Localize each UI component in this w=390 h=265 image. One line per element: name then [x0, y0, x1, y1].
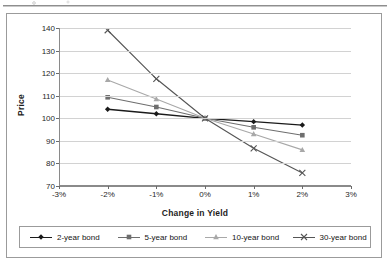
- gridline: [59, 28, 351, 29]
- legend-item-2-year-bond[interactable]: 2-year bond: [20, 232, 108, 242]
- y-tick-label: 140: [42, 24, 55, 33]
- x-tick-mark: [156, 186, 157, 189]
- diamond-marker: [154, 111, 159, 116]
- legend-key-marker: [35, 232, 47, 242]
- legend-label: 10-year bond: [232, 233, 279, 242]
- x-tick-mark: [254, 186, 255, 189]
- x-tick-label: 2%: [297, 190, 309, 199]
- triangle-legend-icon: [205, 232, 227, 242]
- diamond-legend-icon: [30, 232, 52, 242]
- diamond-marker: [251, 119, 256, 124]
- y-axis-line: [59, 28, 60, 186]
- triangle-marker: [105, 77, 111, 82]
- square-legend-icon: [118, 232, 140, 242]
- square-marker: [300, 133, 305, 138]
- cross-marker: [251, 145, 257, 151]
- cross-marker: [299, 170, 305, 176]
- legend-label: 5-year bond: [145, 233, 188, 242]
- legend-item-5-year-bond[interactable]: 5-year bond: [108, 232, 196, 242]
- legend-label: 2-year bond: [57, 233, 100, 242]
- legend-item-10-year-bond[interactable]: 10-year bond: [195, 232, 283, 242]
- y-axis-title: Price: [16, 75, 26, 135]
- gridline: [59, 163, 351, 164]
- y-tick-label: 120: [42, 69, 55, 78]
- x-axis-line: [59, 185, 351, 186]
- legend-key-marker: [210, 232, 222, 242]
- triangle-marker: [213, 234, 219, 239]
- x-tick-label: -1%: [149, 190, 163, 199]
- x-tick-label: 0%: [199, 190, 211, 199]
- diamond-marker: [300, 122, 305, 127]
- diamond-marker: [38, 234, 43, 239]
- series-line: [108, 30, 303, 173]
- gridline: [59, 51, 351, 52]
- chart-legend: 2-year bond5-year bond10-year bond30-yea…: [19, 226, 371, 248]
- x-tick-mark: [205, 186, 206, 189]
- chart-figure: Price 708090100110120130140 -3%-2%-1%0%1…: [6, 13, 382, 258]
- legend-key-marker: [298, 232, 310, 242]
- gridline: [59, 73, 351, 74]
- x-axis-title: Change in Yield: [7, 208, 383, 218]
- square-marker: [251, 125, 256, 130]
- x-tick-label: -2%: [101, 190, 115, 199]
- cross-legend-icon: [293, 232, 315, 242]
- gridline: [59, 118, 351, 119]
- x-tick-mark: [302, 186, 303, 189]
- plot-wrapper: Price 708090100110120130140 -3%-2%-1%0%1…: [7, 14, 383, 219]
- x-tick-mark: [108, 186, 109, 189]
- gridline: [59, 141, 351, 142]
- legend-label: 30-year bond: [320, 233, 367, 242]
- x-tick-label: 3%: [345, 190, 357, 199]
- plot-area: 708090100110120130140 -3%-2%-1%0%1%2%3%: [59, 28, 351, 186]
- y-tick-label: 80: [46, 159, 55, 168]
- square-marker: [154, 105, 159, 110]
- cross-marker: [301, 234, 307, 240]
- cross-marker: [153, 76, 159, 82]
- legend-item-30-year-bond[interactable]: 30-year bond: [283, 232, 371, 242]
- x-tick-mark: [59, 186, 60, 189]
- diamond-marker: [105, 107, 110, 112]
- x-tick-mark: [351, 186, 352, 189]
- y-tick-label: 90: [46, 136, 55, 145]
- y-tick-label: 130: [42, 46, 55, 55]
- series-line: [108, 80, 303, 150]
- legend-key-marker: [123, 232, 135, 242]
- gridline: [59, 96, 351, 97]
- y-tick-label: 100: [42, 114, 55, 123]
- page-rule-shadow: [3, 6, 387, 7]
- x-tick-label: 1%: [248, 190, 260, 199]
- y-tick-label: 110: [42, 91, 55, 100]
- square-marker: [126, 235, 131, 240]
- x-tick-label: -3%: [52, 190, 66, 199]
- series-layer: [59, 28, 351, 186]
